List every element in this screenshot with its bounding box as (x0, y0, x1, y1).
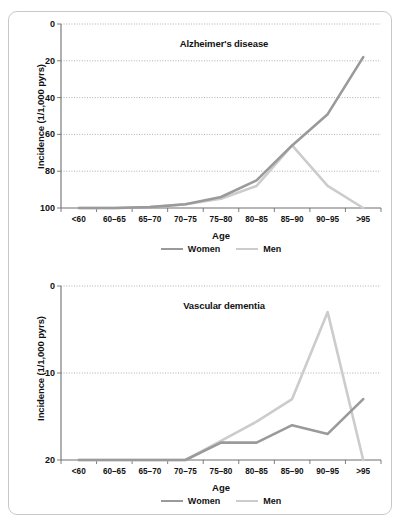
legend-label: Men (263, 496, 281, 506)
plot-area-vascular (9, 264, 393, 516)
legend-item-men[interactable]: Men (236, 244, 281, 254)
chart-panel-alzheimer: Incidence (1/1,000 pyrs) Alzheimer's dis… (9, 12, 391, 264)
x-tick-label: 80–85 (245, 215, 268, 224)
y-tick-label: 0 (29, 19, 55, 29)
figure-frame: Incidence (1/1,000 pyrs) Alzheimer's dis… (8, 11, 392, 515)
y-tick-label: 100 (29, 203, 55, 213)
plot-area-alzheimer (9, 12, 393, 264)
legend-item-men[interactable]: Men (236, 496, 281, 506)
chart-panel-vascular: Incidence (1/1,000 pyrs) Vascular dement… (9, 264, 391, 516)
x-tick-label: 90–95 (316, 467, 339, 476)
x-tick-label: 65–70 (138, 215, 161, 224)
legend-label: Women (188, 496, 220, 506)
y-tick-label: 20 (29, 455, 55, 465)
x-tick-label: 90–95 (316, 215, 339, 224)
series-line-women (79, 399, 363, 460)
x-tick-label: 70–75 (174, 467, 197, 476)
chart-legend: WomenMen (61, 496, 381, 506)
x-axis-label: Age (61, 482, 381, 493)
y-tick-label: 80 (29, 166, 55, 176)
legend-swatch-icon (161, 248, 183, 251)
x-tick-label: 75–80 (210, 467, 233, 476)
legend-item-women[interactable]: Women (161, 496, 220, 506)
legend-swatch-icon (236, 248, 258, 251)
y-tick-label: 10 (29, 368, 55, 378)
x-tick-label: 60–65 (103, 467, 126, 476)
x-axis-label: Age (61, 230, 381, 241)
series-line-women (79, 57, 363, 208)
series-line-men (79, 312, 363, 460)
x-tick-label: >95 (356, 215, 370, 224)
y-tick-label: 40 (29, 93, 55, 103)
y-tick-label: 0 (29, 281, 55, 291)
x-tick-label: 85–90 (281, 215, 304, 224)
legend-label: Women (188, 244, 220, 254)
series-line-men (79, 145, 363, 208)
chart-legend: WomenMen (61, 244, 381, 254)
legend-item-women[interactable]: Women (161, 244, 220, 254)
x-tick-label: <60 (72, 467, 86, 476)
x-tick-label: 75–80 (210, 215, 233, 224)
legend-label: Men (263, 244, 281, 254)
x-tick-label: 70–75 (174, 215, 197, 224)
x-tick-label: 65–70 (138, 467, 161, 476)
x-tick-label: >95 (356, 467, 370, 476)
x-tick-label: 60–65 (103, 215, 126, 224)
y-tick-label: 20 (29, 56, 55, 66)
x-tick-label: 80–85 (245, 467, 268, 476)
legend-swatch-icon (161, 500, 183, 503)
legend-swatch-icon (236, 500, 258, 503)
x-tick-label: <60 (72, 215, 86, 224)
y-tick-label: 60 (29, 129, 55, 139)
x-tick-label: 85–90 (281, 467, 304, 476)
